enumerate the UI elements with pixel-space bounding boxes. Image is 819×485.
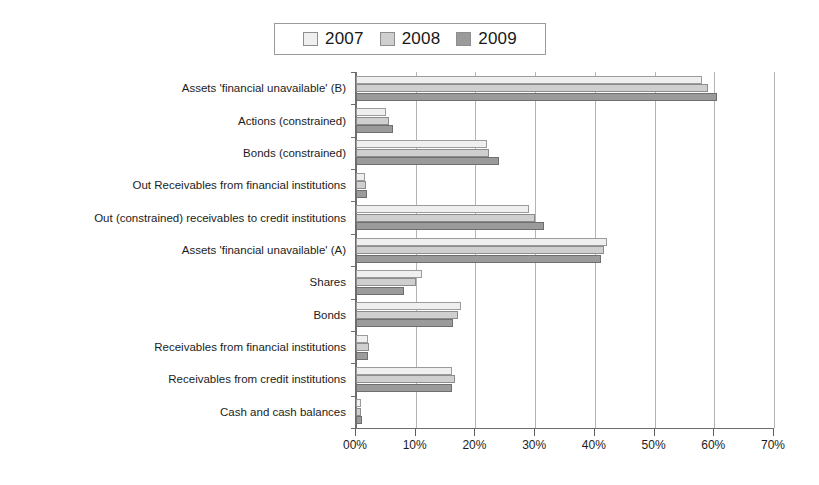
bar-2007 [356, 399, 361, 407]
bar-2008 [356, 149, 489, 157]
category-label: Receivables from financial institutions [16, 341, 346, 353]
category-label: Out Receivables from financial instituti… [16, 179, 346, 191]
category-tick [351, 331, 356, 332]
category-tick [351, 201, 356, 202]
bar-2009 [356, 287, 404, 295]
x-tick-mark-40 [594, 429, 595, 436]
x-tick-mark-50 [654, 429, 655, 436]
bar-2007 [356, 335, 368, 343]
legend-label-2009: 2009 [478, 29, 517, 49]
bar-2007 [356, 108, 386, 116]
category-tick [351, 396, 356, 397]
x-tick-mark-20 [474, 429, 475, 436]
bar-2007 [356, 205, 529, 213]
category-label: Actions (constrained) [16, 115, 346, 127]
bar-2008 [356, 375, 455, 383]
x-tick-mark-30 [534, 429, 535, 436]
bar-2009 [356, 125, 393, 133]
bar-2008 [356, 84, 708, 92]
bar-2009 [356, 255, 601, 263]
bar-2008 [356, 408, 361, 416]
chart-legend: 200720082009 [274, 23, 546, 55]
bar-2007 [356, 238, 607, 246]
category-tick [351, 363, 356, 364]
category-tick [351, 104, 356, 105]
bar-2009 [356, 93, 717, 101]
bar-2008 [356, 117, 389, 125]
x-tick-label: 50% [642, 438, 666, 452]
x-tick-label: 60% [701, 438, 725, 452]
legend-swatch-2008 [380, 32, 395, 46]
category-tick [351, 72, 356, 73]
bar-2008 [356, 278, 416, 286]
bar-2009 [356, 222, 544, 230]
bar-2009 [356, 190, 367, 198]
x-tick-mark-70 [773, 429, 774, 436]
category-label: Bonds [16, 309, 346, 321]
x-tick-label: 10% [403, 438, 427, 452]
legend-label-2008: 2008 [402, 29, 441, 49]
bar-2008 [356, 181, 366, 189]
category-tick [351, 169, 356, 170]
bar-2009 [356, 157, 499, 165]
category-label: Assets 'financial unavailable' (A) [16, 244, 346, 256]
category-label: Receivables from credit institutions [16, 373, 346, 385]
plot-area [355, 72, 774, 428]
bar-2007 [356, 367, 452, 375]
legend-swatch-2007 [303, 32, 318, 46]
category-tick [351, 234, 356, 235]
category-label: Bonds (constrained) [16, 147, 346, 159]
bar-2009 [356, 416, 362, 424]
category-axis-labels: Assets 'financial unavailable' (B)Action… [0, 72, 355, 428]
category-label: Assets 'financial unavailable' (B) [16, 82, 346, 94]
gridline-50 [655, 72, 656, 428]
bar-2008 [356, 214, 535, 222]
category-label: Shares [16, 276, 346, 288]
legend-entry-2008[interactable]: 2008 [380, 29, 441, 49]
bar-2009 [356, 384, 452, 392]
legend-entry-2009[interactable]: 2009 [456, 29, 517, 49]
category-tick [351, 299, 356, 300]
category-tick [351, 137, 356, 138]
bar-2007 [356, 140, 487, 148]
x-tick-mark-10 [415, 429, 416, 436]
bar-2009 [356, 319, 453, 327]
bar-2008 [356, 343, 369, 351]
bar-2008 [356, 246, 604, 254]
x-tick-label: 40% [582, 438, 606, 452]
x-axis-ticks: 00%10%20%30%40%50%60%70% [355, 429, 774, 459]
category-label: Cash and cash balances [16, 406, 346, 418]
x-tick-label: 00% [343, 438, 367, 452]
bar-2007 [356, 173, 365, 181]
bar-2009 [356, 352, 368, 360]
x-tick-mark-60 [713, 429, 714, 436]
x-tick-mark-0 [355, 429, 356, 436]
legend-label-2007: 2007 [325, 29, 364, 49]
bar-2007 [356, 270, 422, 278]
category-tick [351, 266, 356, 267]
bar-2007 [356, 302, 461, 310]
gridline-70 [774, 72, 775, 428]
bar-chart: 200720082009 Assets 'financial unavailab… [0, 0, 819, 485]
legend-swatch-2009 [456, 32, 471, 46]
x-tick-label: 30% [522, 438, 546, 452]
bar-2008 [356, 311, 458, 319]
x-tick-label: 20% [462, 438, 486, 452]
category-label: Out (constrained) receivables to credit … [16, 212, 346, 224]
gridline-60 [714, 72, 715, 428]
legend-entry-2007[interactable]: 2007 [303, 29, 364, 49]
bar-2007 [356, 76, 702, 84]
plot-wrapper: Assets 'financial unavailable' (B)Action… [0, 72, 819, 432]
x-tick-label: 70% [761, 438, 785, 452]
